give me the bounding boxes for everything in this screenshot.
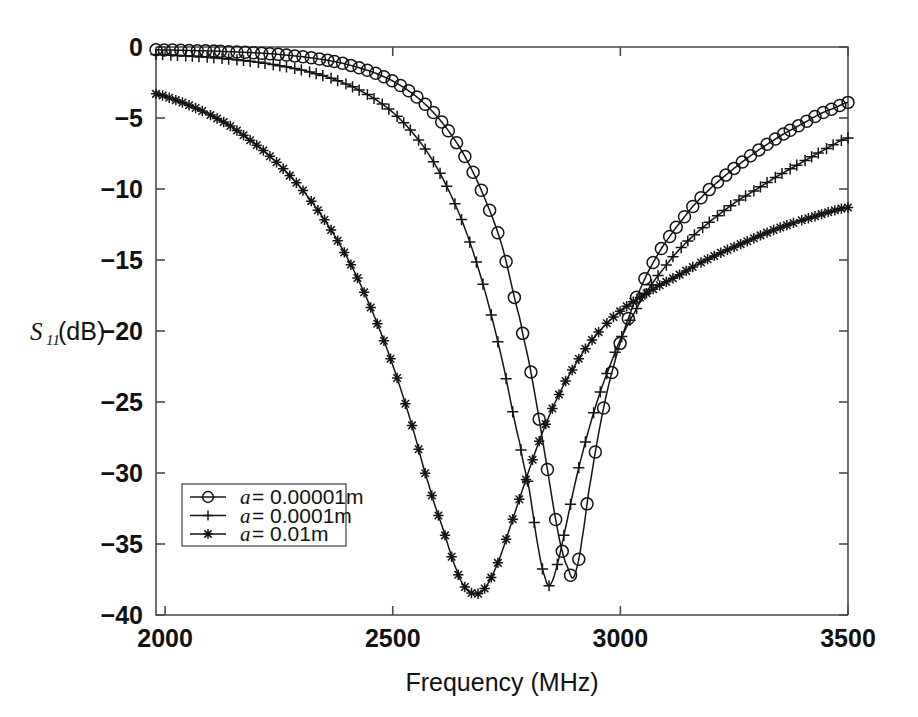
marker-star: [479, 583, 489, 593]
marker-plus: [543, 580, 554, 591]
chart-canvas: 2000250030003500 0−5−10−15−20−25−30−35−4…: [0, 0, 918, 717]
marker-star: [541, 419, 551, 429]
x-tick-label: 2000: [137, 624, 193, 652]
x-tick-label: 3500: [820, 624, 876, 652]
marker-star: [473, 589, 483, 599]
marker-star: [688, 262, 698, 272]
marker-star: [346, 260, 356, 270]
marker-star: [433, 510, 443, 520]
marker-plus: [486, 309, 497, 320]
marker-star: [252, 140, 262, 150]
marker-star: [225, 121, 235, 131]
marker-star: [593, 327, 603, 337]
marker-star: [823, 207, 833, 217]
marker-star: [359, 287, 369, 297]
marker-plus: [296, 64, 307, 75]
marker-star: [547, 403, 557, 413]
marker-star: [534, 436, 544, 446]
marker-star: [514, 494, 524, 504]
marker-star: [521, 474, 531, 484]
marker-plus: [304, 66, 315, 77]
marker-plus: [428, 156, 439, 167]
chart-legend[interactable]: a= 0.00001ma= 0.0001ma= 0.01m: [182, 484, 364, 546]
y-tick-label: −40: [101, 601, 143, 629]
marker-star: [420, 468, 430, 478]
marker-plus: [441, 181, 452, 192]
marker-star: [366, 302, 376, 312]
marker-plus: [377, 98, 388, 109]
y-tick-label: −15: [101, 246, 144, 274]
marker-plus: [289, 63, 300, 74]
marker-star: [615, 306, 625, 316]
marker-star: [203, 529, 213, 539]
marker-star: [501, 534, 511, 544]
y-tick-label: −20: [101, 317, 143, 345]
marker-plus: [501, 373, 512, 384]
marker-star: [238, 130, 248, 140]
marker-star: [385, 354, 395, 364]
marker-star: [843, 202, 853, 212]
marker-plus: [492, 336, 503, 347]
legend-label-variable: a: [240, 522, 251, 546]
x-axis-title: Frequency (MHz): [405, 668, 598, 696]
marker-star: [621, 301, 631, 311]
marker-star: [291, 178, 301, 188]
marker-plus: [580, 436, 591, 447]
y-tick-label: 0: [129, 33, 143, 61]
marker-star: [326, 225, 336, 235]
marker-star: [379, 336, 389, 346]
marker-star: [554, 389, 564, 399]
marker-star: [407, 420, 417, 430]
marker-star: [580, 344, 590, 354]
marker-star: [527, 455, 537, 465]
marker-plus: [507, 406, 518, 417]
marker-plus: [537, 563, 548, 574]
marker-star: [319, 215, 329, 225]
marker-plus: [311, 68, 322, 79]
figure-container: 2000250030003500 0−5−10−15−20−25−30−35−4…: [0, 0, 918, 717]
marker-plus: [274, 60, 285, 71]
marker-plus: [420, 143, 431, 154]
marker-star: [508, 514, 518, 524]
y-tick-label: −5: [114, 104, 143, 132]
marker-plus: [325, 73, 336, 84]
y-tick-label: −30: [101, 459, 143, 487]
marker-plus: [464, 236, 475, 247]
marker-plus: [449, 198, 460, 209]
marker-plus: [434, 168, 445, 179]
marker-plus: [573, 462, 584, 473]
marker-plus: [515, 444, 526, 455]
y-tick-label: −25: [101, 388, 144, 416]
marker-star: [245, 135, 255, 145]
marker-star: [352, 273, 362, 283]
marker-star: [440, 530, 450, 540]
marker-star: [427, 490, 437, 500]
marker-star: [453, 570, 463, 580]
marker-plus: [317, 70, 328, 81]
marker-star: [372, 319, 382, 329]
marker-star: [332, 236, 342, 246]
y-axis-title-symbol: S: [30, 318, 43, 345]
y-axis-title-unit: (dB): [58, 317, 105, 345]
marker-star: [493, 558, 503, 568]
marker-star: [446, 551, 456, 561]
marker-plus: [565, 499, 576, 510]
marker-plus: [595, 386, 606, 397]
marker-plus: [281, 61, 292, 72]
marker-star: [400, 399, 410, 409]
y-tick-label: −35: [101, 530, 144, 558]
marker-plus: [529, 517, 540, 528]
y-tick-label: −10: [101, 175, 143, 203]
marker-plus: [471, 257, 482, 268]
marker-star: [298, 185, 308, 195]
marker-star: [313, 205, 323, 215]
marker-plus: [842, 132, 853, 143]
x-tick-label: 2500: [365, 624, 421, 652]
marker-star: [306, 196, 316, 206]
marker-star: [392, 373, 402, 383]
marker-star: [486, 572, 496, 582]
legend-label-value: = 0.01m: [252, 522, 328, 545]
marker-plus: [477, 279, 488, 290]
marker-star: [413, 444, 423, 454]
marker-star: [574, 354, 584, 364]
